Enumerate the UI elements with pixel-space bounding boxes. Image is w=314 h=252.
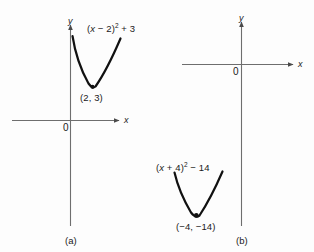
panel-a-y-axis-label: y [68, 17, 73, 26]
panel-b-x-axis-label: x [298, 60, 303, 69]
panel-a-function-label: (x − 2)2 + 3 [87, 24, 135, 34]
panel-b-function-label: (x + 4)2 − 14 [156, 163, 210, 173]
panel-b-y-axis-label: y [239, 14, 244, 23]
panel-a-vertex-label: (2, 3) [80, 93, 103, 103]
panel-a-fn-mid: − 2) [95, 23, 115, 34]
panel-a-fn-post: + 3 [119, 23, 136, 34]
panel-b-origin-label: 0 [233, 67, 239, 77]
panel-a-origin-label: 0 [63, 123, 69, 133]
panel-a-caption: (a) [65, 236, 77, 246]
panel-b-axes [182, 22, 293, 226]
panel-a-vertex-dot [90, 85, 94, 89]
parabola-figure: (x − 2)2 + 3 (2, 3) y x 0 (a) (x + 4)2 −… [0, 0, 314, 252]
panel-b-caption: (b) [236, 236, 248, 246]
figure-canvas [0, 0, 314, 252]
panel-b-fn-post: − 14 [188, 162, 210, 173]
panel-b-vertex-label: (−4, −14) [176, 222, 215, 232]
panel-b-fn-mid: + 4) [164, 162, 184, 173]
panel-b-vertex-dot [194, 213, 199, 218]
panel-a-x-axis-label: x [124, 116, 129, 125]
panel-b-parabola-curve [175, 172, 223, 217]
panel-a-parabola-curve [73, 36, 121, 87]
